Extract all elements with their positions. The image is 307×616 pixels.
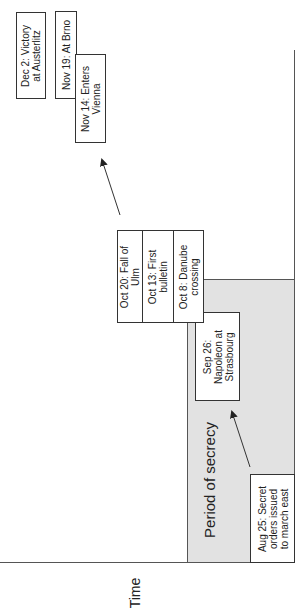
arrow-icon	[232, 412, 250, 467]
time-axis-label-wrap: Time	[120, 575, 150, 610]
arrows-layer	[0, 0, 307, 616]
arrow-icon	[102, 160, 120, 215]
time-axis-label: Time	[128, 577, 143, 608]
